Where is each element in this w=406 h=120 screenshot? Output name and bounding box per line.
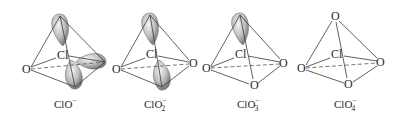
bond: [344, 56, 377, 61]
formula-label: ClO−3: [237, 96, 260, 113]
edge: [31, 16, 60, 67]
atom-cl: Cl: [57, 48, 69, 62]
atom-o: O: [344, 77, 353, 91]
edge: [306, 70, 344, 83]
atom-o: O: [112, 62, 121, 76]
edge: [353, 66, 377, 82]
structure-clo2-minus: Cl O O ClO−2: [112, 13, 198, 113]
lone-pair-lobe-top: [52, 14, 69, 46]
atom-o: O: [297, 61, 306, 75]
hidden-edge: [211, 64, 280, 68]
structure-clo3-minus: Cl O O O ClO−3: [202, 13, 288, 113]
lone-pair-lobe-top: [232, 13, 249, 45]
structure-clo-minus: Cl O ClO−: [22, 14, 106, 110]
atom-o: O: [331, 9, 340, 23]
bond: [248, 56, 280, 62]
edge: [339, 21, 377, 58]
atom-o: O: [189, 56, 198, 70]
atom-o: O: [250, 78, 259, 92]
atom-cl: Cl: [146, 47, 158, 61]
atom-cl: Cl: [235, 47, 247, 61]
atom-o: O: [22, 62, 31, 76]
formula-label: ClO−2: [144, 96, 167, 113]
bond: [31, 58, 56, 67]
atom-o: O: [376, 55, 385, 69]
atom-o: O: [279, 56, 288, 70]
edge: [258, 66, 280, 83]
atom-o: O: [202, 61, 211, 75]
formula-label: ClO−: [54, 96, 77, 110]
structure-clo4-minus: Cl O O O O ClO−4: [297, 9, 385, 113]
bond: [121, 58, 145, 67]
edge: [211, 70, 249, 84]
formula-label: ClO−4: [334, 96, 357, 113]
hidden-edge: [306, 63, 377, 68]
chlorine-oxyanion-diagram: Cl O ClO− Cl O O ClO−2 Cl: [0, 0, 406, 120]
atom-cl: Cl: [331, 47, 343, 61]
bond: [158, 56, 189, 62]
